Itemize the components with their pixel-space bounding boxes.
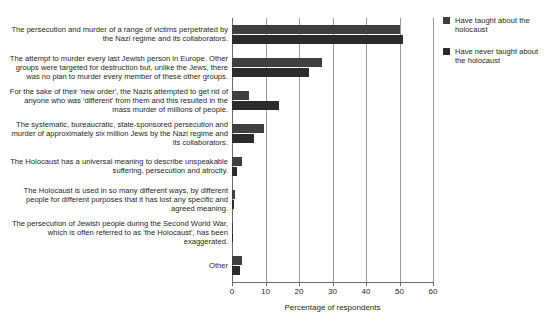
bar-c3-s1 xyxy=(232,134,254,143)
legend-item-1[interactable]: Have never taught about the holocaust xyxy=(443,47,548,66)
tick-label-40: 40 xyxy=(362,287,371,296)
bar-c1-s1 xyxy=(232,68,309,77)
bar-c7-s1 xyxy=(232,266,240,275)
tick-mark-0 xyxy=(232,282,233,286)
legend-item-0[interactable]: Have taught about the holocaust xyxy=(443,16,548,35)
plot-area xyxy=(232,18,433,282)
category-label-7: Other xyxy=(6,261,228,270)
bar-c5-s1 xyxy=(232,200,234,209)
bar-c0-s1 xyxy=(232,35,403,44)
chart-legend: Have taught about the holocaustHave neve… xyxy=(443,16,548,78)
tick-mark-60 xyxy=(433,282,434,286)
category-label-4: The Holocaust has a universal meaning to… xyxy=(6,157,228,176)
bar-chart: The persecution and murder of a range of… xyxy=(0,0,552,326)
bar-c5-s0 xyxy=(232,190,235,199)
x-axis-ticks: 0102030405060 xyxy=(232,282,433,288)
bar-c4-s1 xyxy=(232,167,237,176)
tick-label-50: 50 xyxy=(395,287,404,296)
gridline-60 xyxy=(433,18,434,282)
gridline-50 xyxy=(400,18,401,282)
tick-label-60: 60 xyxy=(429,287,438,296)
tick-label-10: 10 xyxy=(261,287,270,296)
tick-mark-40 xyxy=(366,282,367,286)
bar-c2-s1 xyxy=(232,101,279,110)
tick-mark-30 xyxy=(333,282,334,286)
bar-c4-s0 xyxy=(232,157,242,166)
tick-mark-50 xyxy=(400,282,401,286)
x-axis-title: Percentage of respondents xyxy=(232,303,433,312)
gridline-30 xyxy=(333,18,334,282)
category-label-2: For the sake of their 'new order', the N… xyxy=(6,87,228,115)
legend-swatch-0 xyxy=(443,17,450,24)
tick-label-20: 20 xyxy=(295,287,304,296)
bar-c0-s0 xyxy=(232,25,400,34)
legend-label-0: Have taught about the holocaust xyxy=(455,16,530,34)
bar-c7-s0 xyxy=(232,256,242,265)
bar-c1-s0 xyxy=(232,58,322,67)
category-label-3: The systematic, bureaucratic, state-spon… xyxy=(6,120,228,148)
category-label-6: The persecution of Jewish people during … xyxy=(6,219,228,247)
bar-c6-s1 xyxy=(232,233,233,242)
category-label-1: The attempt to murder every last Jewish … xyxy=(6,54,228,82)
gridline-40 xyxy=(366,18,367,282)
bar-c3-s0 xyxy=(232,124,264,133)
tick-label-0: 0 xyxy=(230,287,234,296)
category-label-0: The persecution and murder of a range of… xyxy=(6,25,228,44)
legend-swatch-1 xyxy=(443,48,450,55)
category-label-5: The Holocaust is used in so many differe… xyxy=(6,186,228,214)
category-labels: The persecution and murder of a range of… xyxy=(6,18,228,282)
legend-label-1: Have never taught about the holocaust xyxy=(455,47,538,65)
bar-c6-s0 xyxy=(232,223,233,232)
tick-mark-10 xyxy=(266,282,267,286)
tick-mark-20 xyxy=(299,282,300,286)
bar-c2-s0 xyxy=(232,91,249,100)
tick-label-30: 30 xyxy=(328,287,337,296)
